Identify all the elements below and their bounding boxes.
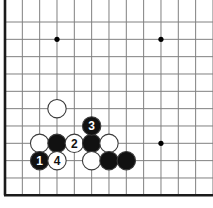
- black-stone: [100, 151, 118, 169]
- stone-move-number: 2: [71, 137, 78, 151]
- stone[interactable]: [117, 151, 135, 169]
- stone[interactable]: [82, 151, 100, 169]
- stone-move-number: 4: [54, 154, 61, 168]
- black-stone: [82, 134, 100, 152]
- white-stone: [82, 151, 100, 169]
- numbered-stone[interactable]: 4: [48, 151, 66, 169]
- numbered-stone[interactable]: 3: [82, 117, 100, 135]
- stone[interactable]: [48, 134, 66, 152]
- stone[interactable]: [100, 151, 118, 169]
- white-stone: [30, 134, 48, 152]
- stone[interactable]: [82, 134, 100, 152]
- stone-move-number: 3: [88, 119, 95, 133]
- star-point: [158, 37, 163, 42]
- stone[interactable]: [48, 99, 66, 117]
- white-stone: [100, 134, 118, 152]
- numbered-stone[interactable]: 2: [65, 134, 83, 152]
- stone-move-number: 1: [36, 154, 43, 168]
- stone[interactable]: [30, 134, 48, 152]
- black-stone: [117, 151, 135, 169]
- go-board-diagram: 2314: [0, 0, 213, 208]
- star-point: [54, 37, 59, 42]
- board-background: [0, 0, 213, 208]
- black-stone: [48, 134, 66, 152]
- white-stone: [48, 99, 66, 117]
- stone[interactable]: [100, 134, 118, 152]
- star-point: [158, 141, 163, 146]
- go-board-canvas: 2314: [0, 0, 213, 208]
- numbered-stone[interactable]: 1: [30, 151, 48, 169]
